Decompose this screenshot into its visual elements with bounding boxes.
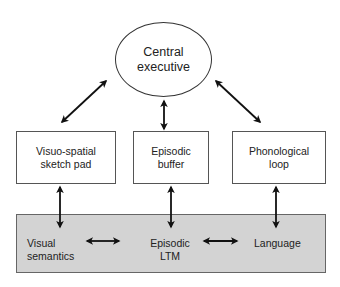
language-line1: Language (254, 237, 301, 250)
phonological-loop-label-line2: loop (249, 158, 309, 171)
visual-semantics-line1: Visual (27, 237, 74, 250)
visual-semantics-label: Visual semantics (27, 237, 74, 263)
visuo-spatial-sketch-pad-node: Visuo-spatial sketch pad (16, 131, 116, 184)
arrow-ce-visuospatial (62, 81, 106, 122)
arrow-ce-phonological (216, 81, 260, 122)
episodic-buffer-label-line2: buffer (151, 158, 191, 171)
central-executive-label-line1: Central (137, 45, 190, 60)
episodic-ltm-line2: LTM (140, 250, 200, 263)
visual-semantics-line2: semantics (27, 250, 74, 263)
visuo-spatial-label-line2: sketch pad (36, 158, 96, 171)
central-executive-label-line2: executive (137, 60, 190, 75)
episodic-ltm-label: Episodic LTM (140, 237, 200, 263)
working-memory-diagram: Central executive Visuo-spatial sketch p… (0, 0, 340, 287)
episodic-buffer-node: Episodic buffer (133, 131, 209, 184)
episodic-buffer-label-line1: Episodic (151, 145, 191, 158)
episodic-ltm-line1: Episodic (140, 237, 200, 250)
phonological-loop-node: Phonological loop (232, 131, 326, 184)
central-executive-node: Central executive (115, 22, 212, 97)
visuo-spatial-label-line1: Visuo-spatial (36, 145, 96, 158)
phonological-loop-label-line1: Phonological (249, 145, 309, 158)
language-label: Language (254, 237, 301, 250)
